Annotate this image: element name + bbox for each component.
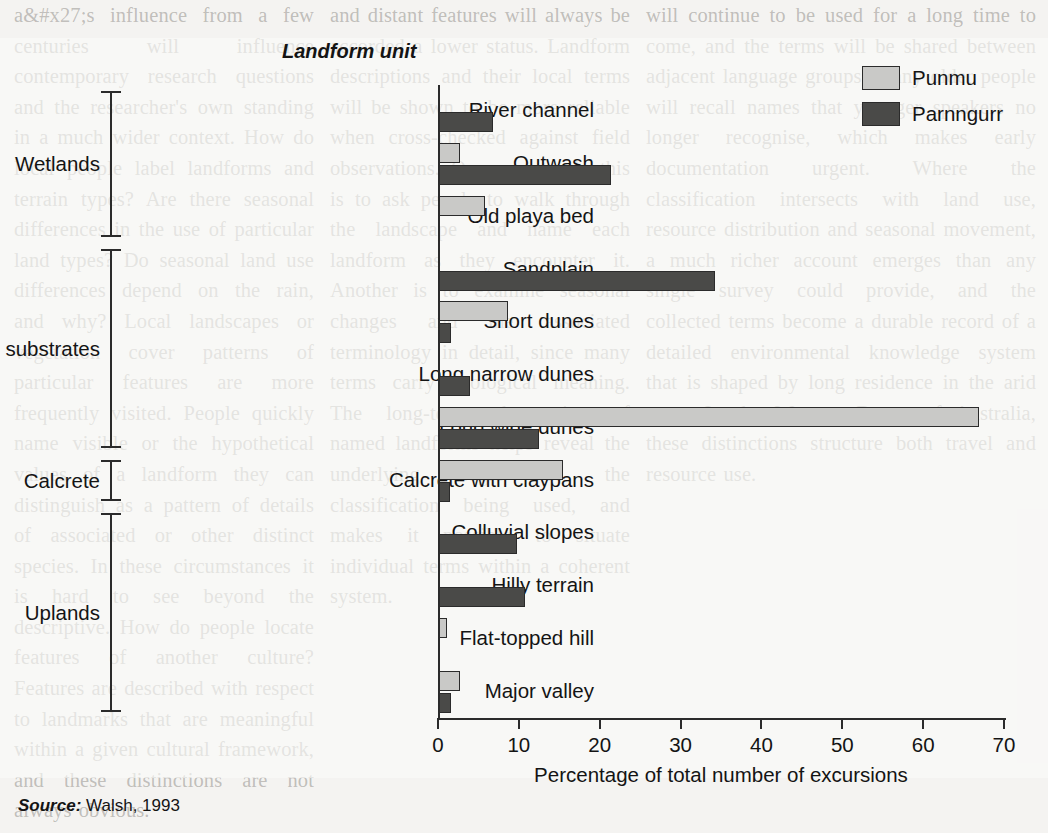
x-tick-40 [760,718,762,729]
bracket-cap-bot [101,499,121,501]
bar-punmu-old-playa-bed [439,196,485,216]
bar-parnngurr-sandplain [439,271,715,291]
bar-parnngurr-colluvial-slopes [439,534,517,554]
x-tick-10 [518,718,520,729]
bracket-cap-top [101,513,121,515]
bar-punmu-calcrete-with-claypans [439,460,563,480]
group-label-uplands: Uplands [25,601,100,625]
bar-parnngurr-calcrete-with-claypans [439,482,450,502]
group-label-calcrete: Calcrete [24,469,100,493]
x-tick-label-30: 30 [669,733,692,757]
bar-parnngurr-river-channel [439,112,493,132]
bracket-cap-bot [101,710,121,712]
x-tick-0 [437,718,439,729]
bracket-stem [110,91,112,237]
bracket-stem [110,513,112,712]
bar-punmu-short-dunes [439,301,508,321]
bar-chart-figure: Landform unit Punmu Parnngurr River chan… [0,0,1048,833]
x-axis-label: Percentage of total number of excursions [438,763,1004,787]
x-tick-label-0: 0 [432,733,443,757]
bar-parnngurr-short-dunes [439,323,451,343]
x-tick-70 [1003,718,1005,729]
x-axis-line [438,718,1006,720]
group-label-wetlands: Wetlands [15,152,100,176]
x-tick-label-60: 60 [912,733,935,757]
bar-punmu-major-valley [439,671,460,691]
x-tick-50 [841,718,843,729]
x-tick-20 [599,718,601,729]
x-tick-label-50: 50 [831,733,854,757]
x-tick-label-20: 20 [588,733,611,757]
x-tick-label-10: 10 [507,733,530,757]
bracket-cap-top [101,91,121,93]
x-tick-label-70: 70 [993,733,1016,757]
bracket-cap-bot [101,235,121,237]
chart-top-axis-title: Landform unit [282,40,416,63]
bar-parnngurr-major-valley [439,693,451,713]
bar-punmu-flat-topped-hill [439,618,447,638]
bracket-cap-top [101,460,121,462]
source-note: Source: Walsh, 1993 [18,796,180,816]
source-citation: Walsh, 1993 [86,796,180,815]
bracket-cap-top [101,249,121,251]
x-tick-label-40: 40 [750,733,773,757]
bar-punmu-outwash [439,143,460,163]
x-tick-60 [922,718,924,729]
source-prefix: Source: [18,796,81,815]
bar-parnngurr-long-wide-dunes [439,429,539,449]
x-tick-30 [680,718,682,729]
bracket-stem [110,460,112,501]
bracket-cap-bot [101,446,121,448]
bar-punmu-long-wide-dunes [439,407,979,427]
bar-parnngurr-hilly-terrain [439,587,525,607]
bar-parnngurr-long-narrow-dunes [439,376,470,396]
plot-area: 010203040506070 [438,85,1004,718]
bracket-stem [110,249,112,448]
group-label-sand-substrates: Sand substrates [0,337,100,361]
bar-parnngurr-outwash [439,165,611,185]
